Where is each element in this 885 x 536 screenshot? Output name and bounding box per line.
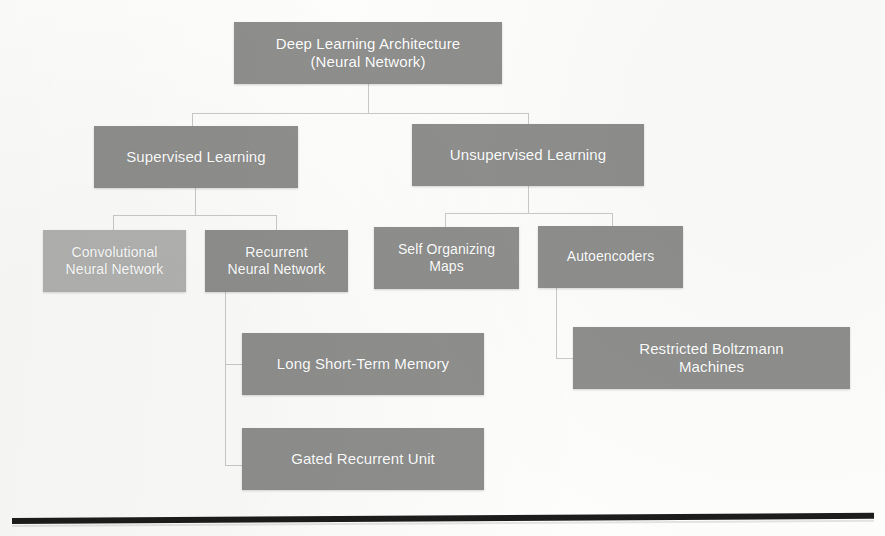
node-label-supervised: Supervised Learning [100, 148, 292, 166]
connector-root-to-supervised [192, 113, 193, 126]
connector-root-stem [368, 84, 369, 113]
node-label-rnn: Recurrent Neural Network [211, 244, 342, 278]
node-cnn[interactable]: Convolutional Neural Network [43, 230, 186, 292]
node-gru[interactable]: Gated Recurrent Unit [242, 428, 484, 490]
connector-supervised-to-rnn [276, 215, 277, 230]
connector-rnn-to-gru [225, 465, 242, 466]
diagram-canvas: Deep Learning Architecture (Neural Netwo… [0, 0, 885, 536]
node-label-lstm: Long Short-Term Memory [248, 355, 478, 373]
node-autoencoders[interactable]: Autoencoders [538, 226, 683, 288]
node-label-rbm: Restricted Boltzmann Machines [579, 340, 844, 377]
node-rbm[interactable]: Restricted Boltzmann Machines [573, 327, 850, 389]
connector-supervised-to-cnn [113, 215, 114, 230]
connector-supervised-bus [113, 215, 276, 216]
connector-rnn-to-lstm [225, 364, 242, 365]
node-root[interactable]: Deep Learning Architecture (Neural Netwo… [234, 22, 502, 84]
node-label-root: Deep Learning Architecture (Neural Netwo… [240, 35, 496, 72]
node-label-som: Self Organizing Maps [380, 241, 513, 275]
connector-root-bus [192, 113, 528, 114]
node-label-autoencoders: Autoencoders [544, 248, 677, 265]
node-unsupervised[interactable]: Unsupervised Learning [412, 124, 644, 186]
node-supervised[interactable]: Supervised Learning [94, 126, 298, 188]
connector-unsupervised-to-som [445, 213, 446, 227]
connector-unsupervised-bus [445, 213, 612, 214]
node-lstm[interactable]: Long Short-Term Memory [242, 333, 484, 395]
connector-unsupervised-to-ae [612, 213, 613, 226]
node-label-cnn: Convolutional Neural Network [49, 244, 180, 278]
connector-unsupervised-stem [528, 186, 529, 213]
node-label-unsupervised: Unsupervised Learning [418, 146, 638, 164]
connector-rnn-stem [225, 292, 226, 465]
node-label-gru: Gated Recurrent Unit [248, 450, 478, 468]
node-som[interactable]: Self Organizing Maps [374, 227, 519, 289]
connector-ae-to-rbm [556, 358, 573, 359]
node-rnn[interactable]: Recurrent Neural Network [205, 230, 348, 292]
connector-root-to-unsupervised [528, 113, 529, 124]
connector-ae-stem [556, 288, 557, 358]
connector-supervised-stem [195, 188, 196, 215]
